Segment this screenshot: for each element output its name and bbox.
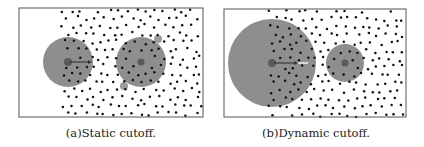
dynamic-cutoff-diagram — [0, 0, 424, 147]
central-particle — [342, 60, 349, 67]
caption-dynamic-cutoff: (b)Dynamic cutoff. — [256, 126, 376, 140]
figure-panel-b: (b)Dynamic cutoff. — [0, 0, 424, 147]
